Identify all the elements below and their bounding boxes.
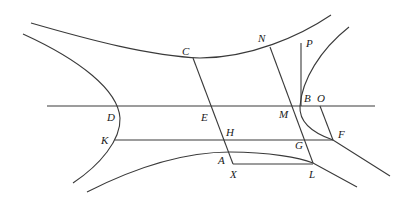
label-point-K: K: [100, 134, 109, 146]
label-point-G: G: [295, 139, 303, 151]
label-point-H: H: [225, 126, 235, 138]
label-point-N: N: [257, 32, 266, 44]
upper-branch-curve: [31, 15, 331, 58]
label-point-C: C: [182, 45, 190, 57]
right-branch-curve: [300, 27, 390, 176]
line-CX: [193, 58, 233, 164]
hyperbola-curves: [23, 15, 390, 192]
label-point-P: P: [305, 37, 313, 49]
label-point-A: A: [217, 154, 225, 166]
label-point-M: M: [278, 108, 289, 120]
construction-lines: [47, 43, 375, 164]
label-point-F: F: [337, 128, 345, 140]
label-point-D: D: [106, 111, 115, 123]
diagram-svg: CNPDEMBOKHGFAXL: [0, 0, 420, 204]
label-point-B: B: [304, 92, 311, 104]
label-point-E: E: [200, 111, 208, 123]
label-point-X: X: [229, 168, 238, 180]
label-point-O: O: [317, 92, 325, 104]
left-branch-curve: [23, 34, 120, 183]
label-point-L: L: [308, 168, 315, 180]
hyperbola-diagram: CNPDEMBOKHGFAXL: [0, 0, 420, 204]
line-NL: [270, 47, 313, 163]
